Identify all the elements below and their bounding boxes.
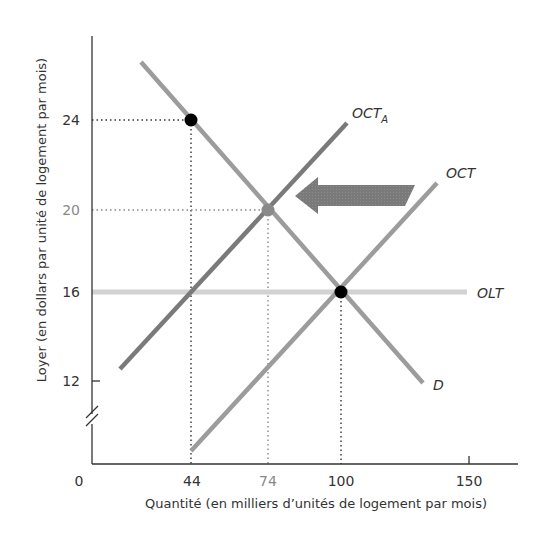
axis-break-gap: [84, 414, 100, 424]
y-axis-title: Loyer (en dollars par unité de logement …: [34, 58, 49, 382]
oct-label: OCT: [446, 165, 477, 181]
axes: [84, 36, 518, 464]
oct-curve: [191, 183, 437, 451]
x-tick-label-44: 44: [183, 473, 201, 489]
oct-a-curve: [120, 123, 347, 369]
origin-label: 0: [75, 473, 84, 489]
y-tick-label-20: 20: [62, 202, 80, 218]
y-tick-label-12: 12: [62, 373, 80, 389]
demand-label: D: [433, 377, 444, 393]
chart: 24 20 16 12 0 44 74 100 150 Quantité (en…: [0, 0, 556, 534]
x-tick-label-150: 150: [456, 473, 483, 489]
shift-left-arrow: [295, 177, 415, 214]
point-100-16: [335, 286, 348, 299]
x-tick-label-74: 74: [259, 473, 277, 489]
oct-a-label: OCTA: [352, 105, 388, 125]
x-tick-label-100: 100: [328, 473, 355, 489]
x-axis-title: Quantité (en milliers d’unités de logeme…: [145, 496, 487, 511]
point-44-24: [185, 114, 198, 127]
olt-label: OLT: [477, 285, 505, 301]
y-tick-label-16: 16: [62, 284, 80, 300]
y-tick-label-24: 24: [62, 112, 80, 128]
point-74-20: [262, 204, 275, 217]
